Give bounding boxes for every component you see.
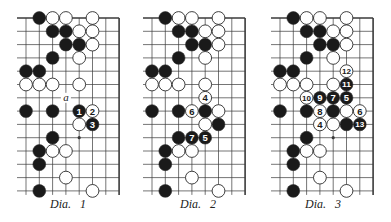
move-number: 10 xyxy=(302,94,311,103)
star-point xyxy=(332,136,335,139)
white-stone xyxy=(327,25,340,38)
white-stone xyxy=(314,145,327,158)
move-number: 5 xyxy=(344,92,350,103)
black-stone xyxy=(300,52,313,65)
black-stone xyxy=(327,38,340,51)
move-number: 9 xyxy=(317,92,322,103)
black-stone xyxy=(300,25,313,38)
move-number: 7 xyxy=(331,92,336,103)
black-stone xyxy=(287,158,300,171)
white-stone: 12 xyxy=(340,65,353,78)
white-stone xyxy=(300,12,313,25)
white-stone xyxy=(340,25,353,38)
move-number: 4 xyxy=(317,119,323,130)
black-stone: 5 xyxy=(340,91,353,104)
caption-dia-1: Dia. 1 xyxy=(50,197,86,212)
white-stone xyxy=(340,12,353,25)
diagram-3: 12111097586413 xyxy=(0,0,391,222)
black-stone xyxy=(340,118,353,131)
move-number: 11 xyxy=(342,80,351,89)
white-stone xyxy=(327,118,340,131)
black-stone xyxy=(287,12,300,25)
black-stone: 13 xyxy=(353,118,366,131)
move-number: 8 xyxy=(317,106,322,117)
white-stone xyxy=(340,105,353,118)
move-number: 13 xyxy=(355,120,364,129)
white-stone xyxy=(327,52,340,65)
white-stone xyxy=(327,78,340,91)
black-stone xyxy=(274,65,287,78)
black-stone: 7 xyxy=(327,91,340,104)
white-stone xyxy=(274,78,287,91)
black-stone xyxy=(300,105,313,118)
white-stone xyxy=(287,78,300,91)
black-stone: 11 xyxy=(340,78,353,91)
white-stone xyxy=(340,185,353,198)
black-stone xyxy=(274,105,287,118)
caption-dia-2: Dia. 2 xyxy=(180,197,216,212)
black-stone: 9 xyxy=(314,91,327,104)
black-stone xyxy=(327,105,340,118)
white-stone: 6 xyxy=(353,105,366,118)
move-number: 12 xyxy=(342,67,351,76)
white-stone: 10 xyxy=(300,91,313,104)
white-stone xyxy=(340,38,353,51)
black-stone xyxy=(314,25,327,38)
black-stone xyxy=(287,185,300,198)
black-stone xyxy=(300,131,313,144)
white-stone xyxy=(314,171,327,184)
white-stone xyxy=(314,12,327,25)
black-stone xyxy=(287,65,300,78)
white-stone xyxy=(300,78,313,91)
black-stone xyxy=(287,145,300,158)
white-stone xyxy=(300,145,313,158)
black-stone xyxy=(314,38,327,51)
white-stone: 4 xyxy=(314,118,327,131)
move-number: 6 xyxy=(357,106,362,117)
caption-dia-3: Dia. 3 xyxy=(305,197,341,212)
white-stone: 8 xyxy=(314,105,327,118)
go-diagrams-figure: a123 4675 12111097586413 Dia. 1 Dia. 2 D… xyxy=(0,0,391,222)
